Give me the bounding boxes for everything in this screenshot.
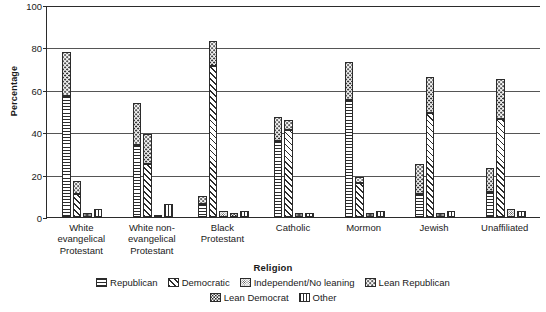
x-tick-label: Unaffiliated <box>457 222 546 233</box>
bar-segment <box>143 164 152 217</box>
x-axis-tick-labels: White evangelical ProtestantWhite non- e… <box>46 222 540 262</box>
legend-label: Lean Democrat <box>224 292 289 303</box>
legend-label: Lean Republican <box>379 277 450 288</box>
bar-chart-figure: Percentage 020406080100 White evangelica… <box>0 0 546 312</box>
bar-segment <box>219 211 228 217</box>
bar-segment <box>305 213 314 217</box>
bar-group <box>329 6 400 217</box>
legend-row-2: Lean DemocratOther <box>0 290 546 305</box>
bar-segment <box>94 209 103 217</box>
bar-group <box>47 6 118 217</box>
bar-segment <box>345 100 354 217</box>
bar-segment <box>376 211 385 217</box>
bar-segment <box>83 213 92 217</box>
legend-swatch-icon <box>96 278 107 287</box>
legend-swatch-icon <box>168 278 179 287</box>
legend-swatch-icon <box>365 278 376 287</box>
legend-swatch-icon <box>299 293 310 302</box>
bar-group <box>118 6 189 217</box>
bar-segment <box>426 113 435 217</box>
bar-segment <box>62 96 71 217</box>
bar-segment <box>366 213 375 217</box>
bar-segment <box>198 196 207 204</box>
bar-segment <box>230 213 239 217</box>
bar-segment <box>496 119 505 217</box>
plot-area: 020406080100 <box>46 6 540 218</box>
legend-item[interactable]: Republican <box>96 277 158 288</box>
bar-segment <box>415 194 424 217</box>
y-tick-label-20: 20 <box>31 170 42 181</box>
y-tick-label-80: 80 <box>31 43 42 54</box>
bar-segment <box>447 211 456 217</box>
y-tick-mark-0 <box>43 218 47 219</box>
bar-segment <box>143 134 152 164</box>
bar-segment <box>274 117 283 140</box>
bar-segment <box>209 41 218 66</box>
bar-segment <box>198 204 207 217</box>
bar-segment <box>62 52 71 97</box>
bar-segment <box>345 62 354 100</box>
bar-group <box>259 6 330 217</box>
bar-segment <box>154 215 163 217</box>
chart-legend: RepublicanDemocraticIndependent/No leani… <box>0 275 546 305</box>
legend-label: Independent/No leaning <box>254 277 355 288</box>
legend-row-1: RepublicanDemocraticIndependent/No leani… <box>0 275 546 290</box>
bar-segment <box>486 192 495 217</box>
bar-segment <box>284 130 293 217</box>
y-tick-label-100: 100 <box>26 1 42 12</box>
bar-segment <box>436 213 445 217</box>
y-tick-label-60: 60 <box>31 85 42 96</box>
legend-swatch-icon <box>210 293 221 302</box>
bar-segment <box>164 204 173 217</box>
legend-label: Democratic <box>182 277 230 288</box>
legend-item[interactable]: Democratic <box>168 277 230 288</box>
bar-groups <box>47 6 540 217</box>
y-tick-label-40: 40 <box>31 128 42 139</box>
legend-item[interactable]: Lean Republican <box>365 277 450 288</box>
bar-segment <box>496 79 505 119</box>
bar-segment <box>73 181 82 194</box>
y-axis-title: Percentage <box>9 51 19 131</box>
bar-segment <box>486 168 495 191</box>
bar-segment <box>426 77 435 113</box>
bar-segment <box>240 211 249 217</box>
bar-segment <box>209 66 218 217</box>
bar-segment <box>415 164 424 194</box>
legend-label: Republican <box>110 277 158 288</box>
bar-segment <box>295 213 304 217</box>
legend-item[interactable]: Lean Democrat <box>210 292 289 303</box>
legend-label: Other <box>313 292 337 303</box>
bar-segment <box>274 141 283 217</box>
bar-segment <box>133 103 142 145</box>
legend-swatch-icon <box>240 278 251 287</box>
bar-segment <box>507 209 516 217</box>
bar-segment <box>73 194 82 217</box>
legend-item[interactable]: Independent/No leaning <box>240 277 355 288</box>
bar-group <box>400 6 471 217</box>
bar-segment <box>517 211 526 217</box>
legend-item[interactable]: Other <box>299 292 337 303</box>
bar-group <box>188 6 259 217</box>
bar-group <box>470 6 541 217</box>
x-axis-title: Religion <box>0 262 546 273</box>
bar-segment <box>284 120 293 131</box>
bar-segment <box>355 183 364 217</box>
bar-segment <box>133 145 142 217</box>
